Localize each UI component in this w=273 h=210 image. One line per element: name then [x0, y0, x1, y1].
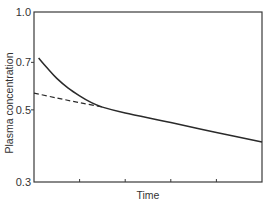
y-axis-label: Plasma concentration: [3, 52, 15, 153]
x-axis-label: Time: [137, 189, 160, 201]
chart: 1.00.70.50.3 Time Plasma concentration: [0, 0, 273, 210]
concentration-curve: [39, 58, 262, 142]
extrapolated-dashed-line: [34, 93, 102, 107]
plot-border: [34, 12, 262, 182]
plot-frame: [34, 12, 262, 182]
y-tick-label: 0.7: [16, 56, 31, 68]
y-tick-label: 1.0: [16, 6, 31, 18]
y-tick-label: 0.5: [16, 104, 31, 116]
y-tick-label: 0.3: [16, 176, 31, 188]
data-series: [34, 58, 262, 142]
axis-ticks: 1.00.70.50.3: [16, 6, 217, 188]
